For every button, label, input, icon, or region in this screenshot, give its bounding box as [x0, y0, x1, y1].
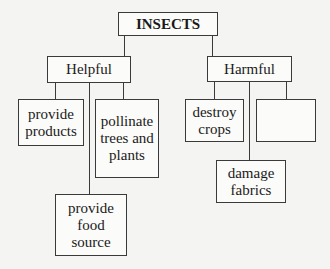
branch-node-label: Helpful [66, 61, 112, 78]
branch-node-label: Harmful [224, 61, 275, 78]
connector-harmful-empty [286, 81, 287, 99]
leaf-node-provide-food-source: provide food source [55, 194, 127, 256]
branch-node-helpful: Helpful [47, 56, 131, 83]
leaf-node-pollinate: pollinate trees and plants [95, 99, 159, 178]
connector-helpful-food [89, 82, 90, 194]
branch-node-harmful: Harmful [207, 56, 292, 82]
leaf-node-label: destroy crops [192, 104, 236, 138]
root-node-insects: INSECTS [118, 12, 218, 36]
connector-harmful-crops [214, 81, 215, 99]
leaf-node-provide-products: provide products [18, 99, 84, 146]
leaf-node-destroy-crops: destroy crops [185, 99, 244, 142]
leaf-node-label: provide products [25, 106, 77, 140]
connector-root-harmful [212, 35, 213, 56]
root-node-label: INSECTS [136, 16, 200, 33]
leaf-node-label: pollinate trees and plants [100, 113, 154, 164]
leaf-node-label: provide food source [68, 200, 114, 251]
connector-helpful-products [55, 82, 56, 99]
leaf-node-damage-fabrics: damage fabrics [216, 160, 286, 203]
leaf-node-empty [256, 99, 316, 142]
connector-harmful-fabrics [249, 81, 250, 160]
leaf-node-label: damage fabrics [228, 165, 275, 199]
connector-helpful-pollinate [123, 82, 124, 99]
connector-root-helpful [124, 35, 125, 56]
